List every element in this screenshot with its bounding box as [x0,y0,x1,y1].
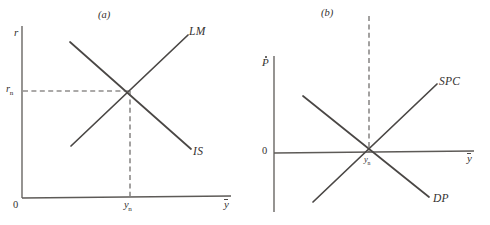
panel-a-label-is: IS [193,146,203,158]
panel-a-origin-label: 0 [13,200,18,211]
panel-a-yn-label: yn [124,200,132,211]
panel-b-y-axis-label-text: P [262,57,269,68]
panel-a-yn-subscript: n [128,205,132,213]
panel-b-label-dp: DP [433,193,449,205]
panel-b-x-axis-label-text: y [467,152,472,164]
panel-b-yn-subscript: n [367,160,370,166]
panel-b-curve-spc [313,84,437,202]
panel-b-label-spc: SPC [439,76,460,88]
panel-a-islm: (a) r rn 0 yn y LM IS [0,0,245,225]
panel-a-caption: (a) [98,10,110,21]
panel-a-plot [0,0,245,225]
panel-b-x-axis-label: y [467,152,472,164]
panel-b-phillips: (b) P 0 yn y SPC DP [245,0,490,225]
panel-a-x-axis-label: y [224,198,229,210]
panel-a-label-lm: LM [189,26,206,38]
panel-a-rn-label: rn [6,84,14,95]
panel-b-y-axis-label: P [262,57,269,68]
panel-b-plot [245,0,490,225]
panel-b-curve-dp [303,96,429,197]
panel-a-y-axis-label: r [14,27,18,38]
panel-b-caption: (b) [321,8,333,19]
panel-a-x-axis [22,196,231,198]
panel-a-x-axis-label-text: y [224,198,229,210]
panel-a-rn-subscript: n [10,89,14,97]
panel-b-yn-label: yn [364,155,371,164]
panel-b-origin-label: 0 [262,146,267,157]
figure-two-panel-islm-phillips: (a) r rn 0 yn y LM IS (b) P 0 yn y SPC [0,0,490,225]
